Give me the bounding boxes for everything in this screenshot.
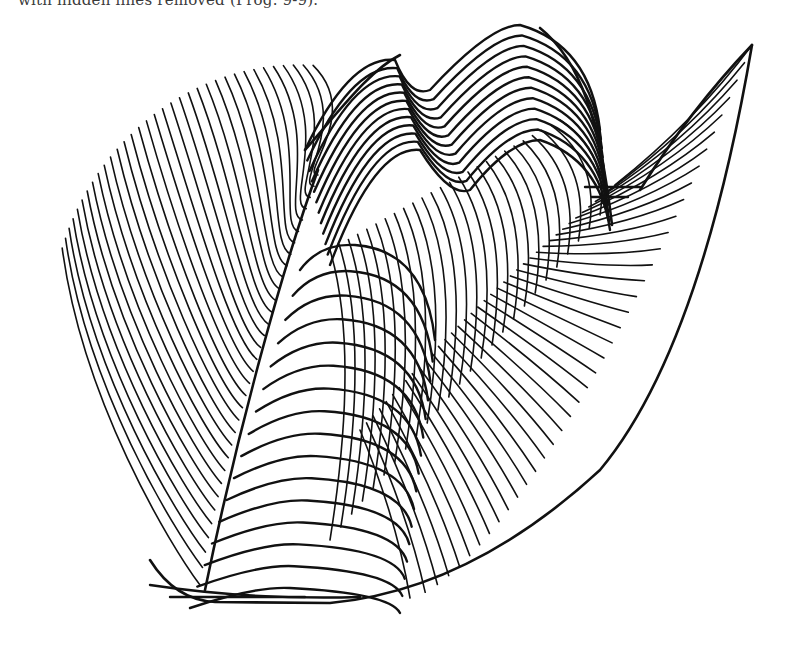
hatch-line — [450, 182, 477, 371]
hatch-line — [524, 264, 645, 281]
hatch-line — [406, 381, 490, 534]
lower-right-boundary — [150, 45, 752, 603]
hatch-line — [468, 172, 497, 345]
hatch-line — [188, 93, 268, 324]
hatch-line — [348, 240, 365, 514]
hatch-line — [551, 125, 591, 228]
hatch-line — [425, 360, 517, 497]
hatch-line — [556, 200, 683, 235]
ridge-band — [256, 388, 421, 455]
hatch-line — [412, 374, 499, 522]
ridge-band — [190, 588, 400, 613]
hatch-line — [180, 98, 265, 336]
hatch-line — [563, 183, 692, 229]
hatch-line — [339, 245, 355, 527]
hatch-line — [491, 294, 604, 358]
hatch-line — [542, 130, 581, 241]
hatch-line — [537, 249, 661, 254]
ridge-band — [197, 566, 402, 596]
hatch-line — [445, 340, 544, 458]
hatch-line — [477, 167, 508, 332]
hatch-line — [609, 63, 745, 191]
hatch-line — [330, 250, 345, 540]
ridge-band — [212, 522, 407, 561]
surface-plot-figure — [0, 0, 793, 655]
back-face-hatch-lines — [62, 65, 332, 585]
hatch-line — [432, 353, 527, 484]
hatch-line — [303, 65, 323, 186]
